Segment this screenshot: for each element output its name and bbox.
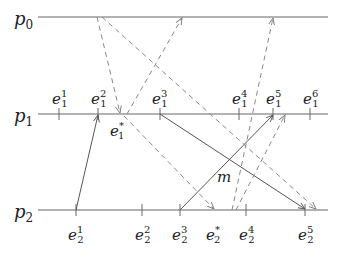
dashed-e1star-to-e2star xyxy=(124,116,214,209)
message-e13-to-e25 xyxy=(160,114,305,209)
event-label-e2-4: e42 xyxy=(239,224,255,245)
dashed-p2-to-p1 xyxy=(236,115,285,210)
event-label-e1-2: e21 xyxy=(91,88,107,109)
event-label-e2-1: e12 xyxy=(68,224,84,245)
message-e21-to-e12 xyxy=(76,115,98,210)
process-diagram: p0 p1 p2 e11 e21 e31 e41 e51 e61 e*1 e12… xyxy=(0,0,344,261)
message-label-m: m xyxy=(217,168,231,186)
event-label-e1-3: e31 xyxy=(152,88,168,109)
event-label-e2-star: e*2 xyxy=(206,224,220,245)
event-label-e2-3: e32 xyxy=(172,224,188,245)
process-label-p0: p0 xyxy=(14,8,33,32)
message-m-e23-to-e15 xyxy=(180,115,273,210)
event-label-e1-1: e11 xyxy=(52,88,68,109)
event-label-e2-2: e22 xyxy=(135,224,151,245)
event-label-e1-4: e41 xyxy=(232,88,248,109)
event-label-e1-star: e*1 xyxy=(110,120,124,141)
process-label-p2: p2 xyxy=(14,201,33,225)
process-label-p1: p1 xyxy=(14,105,33,129)
event-label-e1-5: e51 xyxy=(266,88,282,109)
event-label-e2-5: e52 xyxy=(298,224,314,245)
event-label-e1-6: e61 xyxy=(303,88,319,109)
